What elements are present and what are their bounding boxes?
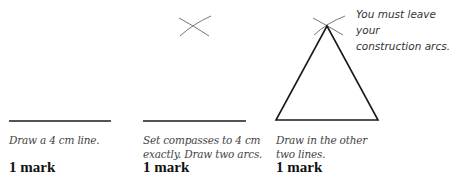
- panel-3-caption: Draw in the other two lines.: [276, 133, 367, 161]
- note-line-1: You must leave your: [356, 6, 454, 38]
- panel-3-mark: 1 mark: [276, 159, 322, 176]
- caption-line-1: Set compasses to 4 cm: [143, 133, 262, 147]
- compass-arc-right: [180, 16, 211, 36]
- panel-2-caption: Set compasses to 4 cm exactly. Draw two …: [143, 133, 262, 161]
- note-line-2: construction arcs.: [356, 38, 454, 54]
- panel-1-mark: 1 mark: [9, 159, 55, 176]
- panel-2-mark: 1 mark: [143, 159, 189, 176]
- caption-line-1: Draw a 4 cm line.: [9, 133, 99, 147]
- construction-note: You must leave your construction arcs.: [356, 6, 454, 54]
- caption-line-1: Draw in the other: [276, 133, 367, 147]
- panel-1-caption: Draw a 4 cm line.: [9, 133, 99, 147]
